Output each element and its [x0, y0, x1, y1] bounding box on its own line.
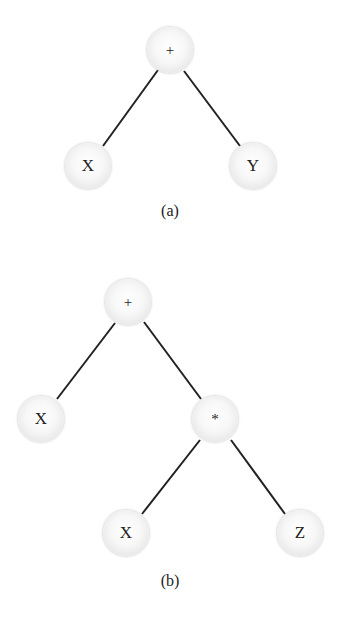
edge-b-mul-z	[231, 440, 285, 514]
edge-a-plus-x	[103, 70, 158, 146]
node-b-z: Z	[277, 510, 323, 556]
edge-b-plus-mul	[144, 322, 201, 399]
node-b-multiply: *	[192, 396, 238, 442]
node-a-x: X	[65, 143, 111, 189]
node-b-x2: X	[103, 510, 149, 556]
node-a-plus: +	[147, 27, 193, 73]
caption-b: (b)	[161, 572, 180, 590]
node-a-y: Y	[230, 143, 276, 189]
edge-b-mul-x2	[142, 440, 200, 514]
edge-b-plus-x	[57, 323, 115, 399]
node-b-plus: +	[105, 279, 151, 325]
edge-a-plus-y	[184, 71, 240, 146]
node-b-x: X	[18, 396, 64, 442]
caption-a: (a)	[161, 202, 179, 220]
